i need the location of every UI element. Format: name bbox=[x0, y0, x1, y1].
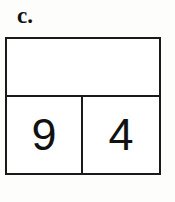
figure-root: c. 9 4 bbox=[0, 0, 175, 202]
ones-digit: 4 bbox=[108, 112, 133, 157]
part-label: c. bbox=[17, 4, 33, 28]
ones-cell: 4 bbox=[83, 97, 159, 173]
tens-digit: 9 bbox=[31, 112, 56, 157]
place-value-frame: 9 4 bbox=[5, 37, 161, 175]
tens-cell: 9 bbox=[7, 97, 83, 173]
digit-row: 9 4 bbox=[7, 97, 159, 173]
top-empty-row bbox=[7, 39, 159, 97]
